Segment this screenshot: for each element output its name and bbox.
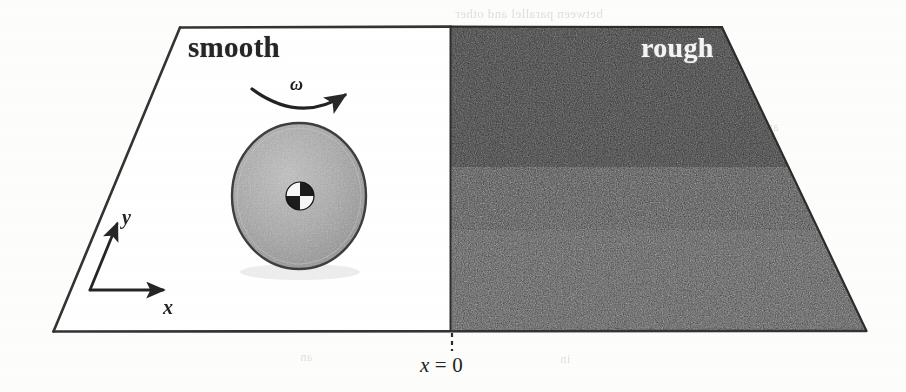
region-label-rough: rough: [641, 32, 714, 64]
boundary-label: x=0: [420, 353, 463, 378]
boundary-label-value: 0: [452, 353, 463, 377]
axis-label-y: y: [122, 206, 131, 229]
boundary-label-equals: =: [435, 353, 447, 377]
boundary-label-variable: x: [420, 353, 430, 377]
plane-diagram: [0, 0, 906, 392]
axis-label-x: x: [163, 296, 173, 319]
omega-label: ω: [290, 74, 303, 95]
figure-canvas: between parallel and otherandontothedinc…: [0, 0, 906, 392]
disk-hub-center-of-mass: [286, 182, 314, 210]
region-label-smooth: smooth: [188, 31, 280, 64]
